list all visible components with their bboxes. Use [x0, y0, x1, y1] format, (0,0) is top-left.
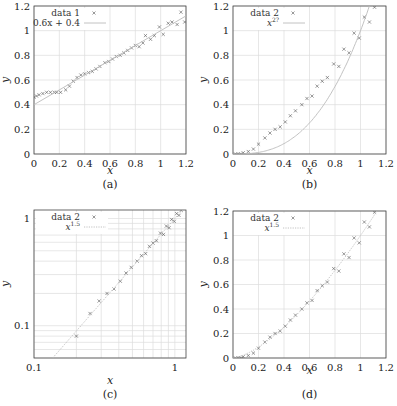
x-tick-label: 1 [357, 158, 363, 169]
data-point-marker [289, 114, 292, 117]
chart-panel-b: 00.20.40.60.811.200.20.40.60.811.2xy(b)d… [197, 0, 394, 191]
data-point-marker [138, 45, 141, 48]
x-tick-label: 0.4 [77, 158, 93, 169]
data-point-marker [247, 354, 250, 357]
data-point-marker [363, 220, 366, 223]
x-tick-label: 1 [357, 362, 363, 373]
panel-caption: (c) [103, 388, 118, 401]
x-tick-label: 0.8 [327, 158, 343, 169]
x-tick-label: 0.2 [251, 158, 267, 169]
x-tick-label: 0.4 [276, 158, 292, 169]
data-point-marker [368, 225, 371, 228]
legend: data 2x2? [235, 8, 307, 30]
y-tick-label: 0.6 [213, 75, 229, 86]
x-tick-label: 0 [230, 362, 236, 373]
x-axis-label: x [306, 164, 313, 177]
y-tick-label: 0.8 [213, 50, 229, 61]
y-tick-label: 1 [223, 25, 229, 36]
x-tick-label: 1.2 [378, 158, 394, 169]
data-point-marker [294, 109, 297, 112]
data-point-marker [45, 91, 48, 94]
data-point-marker [64, 88, 67, 91]
data-point-marker [167, 22, 170, 25]
chart-panel-d: 00.20.40.60.811.200.20.40.60.811.2xy(d)d… [197, 197, 394, 401]
y-tick-label: 0.8 [213, 255, 229, 266]
data-point-marker [49, 91, 52, 94]
data-point-marker [176, 23, 179, 26]
data-point-marker [347, 51, 350, 54]
x-tick-label: 1 [157, 158, 163, 169]
x-tick-label: 0 [31, 158, 37, 169]
data-point-marker [252, 147, 255, 150]
y-tick-label: 0 [223, 353, 229, 364]
data-point-marker [279, 125, 282, 128]
x-tick-label: 0.1 [26, 362, 42, 373]
y-tick-label: 1.2 [14, 1, 30, 12]
legend: data 10.6x + 0.4 [33, 8, 108, 30]
y-tick-label: 0 [24, 149, 30, 160]
data-point-marker [310, 94, 313, 97]
y-tick-label: 0 [223, 149, 229, 160]
y-tick-label: 0.2 [14, 124, 30, 135]
panel-caption: (b) [302, 178, 318, 191]
chart-panel-a: 00.20.40.60.811.200.20.40.60.811.2xy(a)d… [0, 1, 194, 192]
data-point-marker [316, 85, 319, 88]
panel-caption: (a) [102, 178, 117, 191]
y-tick-label: 0.1 [14, 320, 30, 331]
x-tick-label: 0 [230, 158, 236, 169]
y-tick-label: 0.6 [14, 75, 30, 86]
y-tick-label: 0.8 [14, 50, 30, 61]
panel-caption: (d) [302, 388, 318, 401]
y-tick-label: 0.2 [213, 124, 229, 135]
figure-canvas: 00.20.40.60.811.200.20.40.60.811.2xy(a)d… [0, 0, 397, 406]
y-tick-label: 0.4 [213, 99, 229, 110]
data-point-marker [353, 32, 356, 35]
x-tick-label: 0.2 [51, 158, 67, 169]
legend: data 2x1.5 [235, 213, 307, 235]
x-axis-label: x [107, 164, 114, 177]
y-tick-label: 0.2 [213, 328, 229, 339]
x-tick-label: 1.2 [378, 362, 394, 373]
data-point-marker [41, 92, 44, 95]
x-tick-label: 0.8 [127, 158, 143, 169]
data-point-marker [149, 38, 152, 41]
y-tick-label: 0.6 [213, 279, 229, 290]
y-tick-label: 0.4 [213, 304, 229, 315]
data-point-marker [268, 131, 271, 134]
y-tick-label: 1 [24, 25, 30, 36]
data-point-marker [140, 254, 143, 257]
data-point-marker [247, 150, 250, 153]
chart-panel-c: 0.110.11xy(c)data 2x1.5 [0, 206, 186, 401]
x-tick-label: 0.2 [251, 362, 267, 373]
x-axis-label: x [107, 374, 114, 387]
data-point-marker [162, 33, 165, 36]
x-tick-label: 1 [172, 362, 178, 373]
data-point-marker [337, 269, 340, 272]
data-point-marker [144, 34, 147, 37]
x-tick-label: 1.2 [178, 158, 194, 169]
x-tick-label: 0.8 [327, 362, 343, 373]
y-axis-label: y [0, 280, 12, 288]
data-point-marker [263, 136, 266, 139]
data-point-marker [337, 65, 340, 68]
data-point-marker [347, 256, 350, 259]
data-point-marker [98, 299, 101, 302]
data-point-marker [179, 11, 182, 14]
y-tick-label: 0.4 [14, 99, 30, 110]
y-axis-label: y [197, 281, 210, 289]
y-tick-label: 1.2 [213, 1, 229, 12]
y-axis-label: y [197, 76, 210, 84]
y-axis-label: y [0, 76, 12, 84]
data-point-marker [305, 97, 308, 100]
data-point-marker [112, 287, 115, 290]
x-axis-label: x [306, 364, 313, 377]
data-point-marker [177, 214, 180, 217]
data-point-marker [252, 352, 255, 355]
y-tick-label: 1.2 [213, 206, 229, 217]
data-point-marker [326, 76, 329, 79]
svg-text:data 1: data 1 [51, 8, 80, 18]
y-tick-label: 1 [223, 230, 229, 241]
data-point-marker [353, 236, 356, 239]
svg-text:0.6x + 0.4: 0.6x + 0.4 [33, 18, 80, 28]
data-point-marker [342, 252, 345, 255]
